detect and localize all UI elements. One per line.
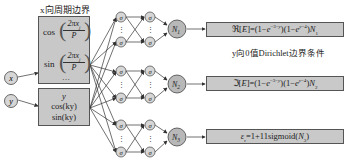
sin-term: sin (44, 59, 55, 69)
svg-text:⋮: ⋮ (147, 26, 154, 34)
y-feature-y: y (39, 91, 89, 101)
svg-text:⋮: ⋮ (118, 26, 125, 34)
input-node-x: x (5, 72, 18, 85)
x-feature-box: cos 2πxj P ( ) sin 2πxj P ( ) … (38, 16, 90, 84)
y-feature-box: y cos(ky) sin(ky) (38, 88, 90, 126)
svg-text:x: x (8, 74, 13, 83)
output-formula-permittivity: εr=1+11sigmoid(N3) (206, 129, 344, 144)
svg-text:⋮: ⋮ (147, 135, 154, 143)
svg-text:y: y (8, 97, 13, 106)
output-formula-imag: ℑ[E]=(1−e−3−y)(1−ey−4)N2 (206, 76, 344, 91)
x-feature-ellipsis: … (62, 73, 70, 82)
x-periodic-label: x向周期边界 (40, 3, 90, 16)
svg-text:⋮: ⋮ (118, 81, 125, 89)
pinn-architecture-diagram: x y σσ σσ σσ σσ σσ σσ ⋮⋮ ⋮⋮ ⋮⋮ (0, 0, 348, 165)
svg-text:⋮: ⋮ (118, 135, 125, 143)
cos-term: cos (43, 27, 55, 37)
svg-text:⋮: ⋮ (147, 81, 154, 89)
y-feature-cos: cos(ky) (39, 101, 89, 112)
output-formula-real: ℜ[E]=(1−e−3−y)(1−ey−4)N1 (206, 22, 344, 37)
input-node-y: y (5, 95, 18, 108)
y-feature-sin: sin(ky) (39, 112, 89, 123)
y-dirichlet-label: y向0值Dirichlet边界条件 (232, 46, 325, 58)
